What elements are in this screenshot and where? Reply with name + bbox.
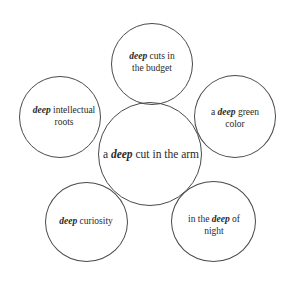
upper-right-label-line1: a deep green (211, 106, 259, 118)
upper-right-label: a deep green color (211, 106, 259, 130)
upper-left-label-line1: deep intellectual (33, 104, 96, 116)
lower-left-label-line1: deep curiosity (59, 215, 113, 227)
lower-right-label: in the deep of night (188, 213, 240, 237)
deep-meaning-diagram: a deep cut in the arm deep cuts in the b… (0, 0, 291, 282)
upper-right-label-keyword: deep (218, 107, 236, 117)
lower-right-label-post: of (230, 214, 240, 224)
upper-left-label: deep intellectual roots (33, 104, 96, 128)
lower-right-label-line2: night (188, 225, 240, 237)
lower-left-label: deep curiosity (59, 215, 113, 227)
top-label-line1: deep cuts in (129, 50, 174, 62)
top-label-keyword: deep (129, 51, 147, 61)
center-label-keyword: deep (111, 148, 133, 160)
lower-right-label-keyword: deep (212, 214, 230, 224)
upper-right-label-line2: color (211, 118, 259, 130)
lower-right-label-line1: in the deep of (188, 213, 240, 225)
upper-left-label-post: intellectual (51, 105, 96, 115)
center-label-pre: a (103, 148, 111, 160)
top-label-post: cuts in (147, 51, 174, 61)
lower-left-label-keyword: deep (59, 216, 77, 226)
upper-right-label-post: green (236, 107, 259, 117)
center-label: a deep cut in the arm (103, 147, 199, 161)
top-label-line2: the budget (129, 62, 174, 74)
upper-left-label-line2: roots (33, 116, 96, 128)
lower-left-label-post: curiosity (77, 216, 113, 226)
lower-right-label-pre: in the (188, 214, 212, 224)
center-label-post: cut in the arm (133, 148, 199, 160)
upper-left-label-keyword: deep (33, 105, 51, 115)
top-label: deep cuts in the budget (129, 50, 174, 74)
